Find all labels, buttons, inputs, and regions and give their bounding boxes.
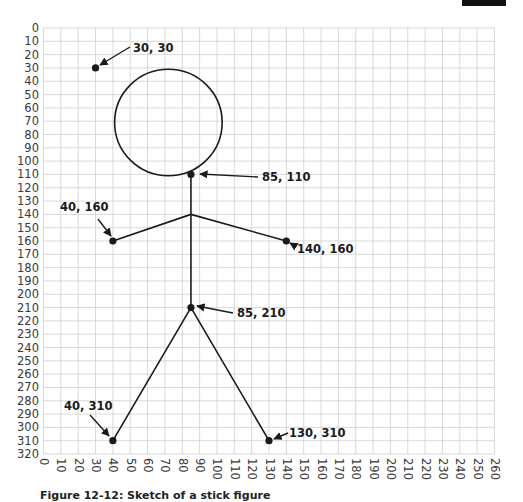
x-tick-label: 80 bbox=[176, 458, 190, 473]
y-axis-labels: 0102030405060708090100110120130140150160… bbox=[17, 21, 39, 461]
label-arrow bbox=[197, 306, 233, 313]
x-tick-label: 150 bbox=[297, 458, 311, 480]
label-arrow bbox=[100, 47, 130, 65]
x-tick-label: 0 bbox=[37, 458, 51, 465]
data-point bbox=[187, 171, 194, 178]
x-tick-label: 200 bbox=[384, 458, 398, 480]
x-tick-label: 100 bbox=[210, 458, 224, 480]
x-tick-label: 210 bbox=[401, 458, 415, 480]
y-tick-label: 110 bbox=[17, 167, 39, 181]
y-tick-label: 100 bbox=[17, 154, 39, 168]
x-tick-label: 260 bbox=[488, 458, 502, 480]
y-tick-label: 30 bbox=[24, 61, 39, 75]
x-tick-label: 50 bbox=[124, 458, 138, 473]
x-tick-label: 110 bbox=[228, 458, 242, 480]
point-label: 40, 310 bbox=[64, 399, 112, 413]
y-tick-label: 0 bbox=[32, 21, 39, 35]
y-tick-label: 240 bbox=[17, 341, 39, 355]
x-tick-label: 170 bbox=[332, 458, 346, 480]
y-tick-label: 90 bbox=[24, 141, 39, 155]
data-point bbox=[187, 304, 194, 311]
x-tick-label: 230 bbox=[436, 458, 450, 480]
y-tick-label: 10 bbox=[24, 34, 39, 48]
x-tick-label: 130 bbox=[263, 458, 277, 480]
y-tick-label: 140 bbox=[17, 207, 39, 221]
data-point bbox=[109, 237, 116, 244]
y-tick-label: 290 bbox=[17, 407, 39, 421]
y-tick-label: 260 bbox=[17, 367, 39, 381]
x-tick-label: 60 bbox=[141, 458, 155, 473]
y-tick-label: 150 bbox=[17, 221, 39, 235]
y-tick-label: 160 bbox=[17, 234, 39, 248]
x-tick-label: 120 bbox=[245, 458, 259, 480]
y-tick-label: 60 bbox=[24, 101, 39, 115]
x-tick-label: 190 bbox=[367, 458, 381, 480]
data-point bbox=[109, 437, 116, 444]
point-label: 30, 30 bbox=[133, 41, 173, 55]
x-tick-label: 10 bbox=[54, 458, 68, 473]
y-tick-label: 310 bbox=[17, 434, 39, 448]
x-tick-label: 70 bbox=[158, 458, 172, 473]
y-tick-label: 80 bbox=[24, 128, 39, 142]
y-tick-label: 270 bbox=[17, 380, 39, 394]
y-tick-label: 120 bbox=[17, 181, 39, 195]
y-tick-label: 20 bbox=[24, 48, 39, 62]
y-tick-label: 50 bbox=[24, 88, 39, 102]
point-label: 85, 210 bbox=[237, 306, 285, 320]
x-tick-label: 20 bbox=[72, 458, 86, 473]
x-tick-label: 40 bbox=[106, 458, 120, 473]
point-label: 40, 160 bbox=[60, 200, 108, 214]
y-tick-label: 230 bbox=[17, 327, 39, 341]
figure-caption: Figure 12-12: Sketch of a stick figure bbox=[40, 489, 270, 502]
y-tick-label: 170 bbox=[17, 247, 39, 261]
y-tick-label: 130 bbox=[17, 194, 39, 208]
point-label: 130, 310 bbox=[289, 426, 345, 440]
data-point bbox=[283, 237, 290, 244]
x-axis-labels: 0102030405060708090100110120130140150160… bbox=[37, 458, 502, 480]
x-tick-label: 220 bbox=[419, 458, 433, 480]
y-tick-label: 280 bbox=[17, 394, 39, 408]
point-label: 140, 160 bbox=[297, 242, 353, 256]
x-tick-label: 240 bbox=[453, 458, 467, 480]
y-tick-label: 40 bbox=[24, 74, 39, 88]
y-tick-label: 250 bbox=[17, 354, 39, 368]
y-tick-label: 180 bbox=[17, 261, 39, 275]
point-label: 85, 110 bbox=[262, 170, 310, 184]
y-tick-label: 210 bbox=[17, 301, 39, 315]
y-tick-label: 200 bbox=[17, 287, 39, 301]
x-tick-label: 30 bbox=[89, 458, 103, 473]
label-arrow bbox=[90, 415, 109, 436]
y-tick-label: 70 bbox=[24, 114, 39, 128]
x-tick-label: 180 bbox=[349, 458, 363, 480]
label-arrow bbox=[274, 433, 288, 439]
point-labels: 30, 3085, 11040, 160140, 16085, 21040, 3… bbox=[60, 41, 353, 440]
y-tick-label: 300 bbox=[17, 420, 39, 434]
x-tick-label: 140 bbox=[280, 458, 294, 480]
x-tick-label: 90 bbox=[193, 458, 207, 473]
y-tick-label: 220 bbox=[17, 314, 39, 328]
data-point bbox=[92, 64, 99, 71]
data-point bbox=[265, 437, 272, 444]
y-tick-label: 320 bbox=[17, 447, 39, 461]
x-tick-label: 160 bbox=[315, 458, 329, 480]
head-circle bbox=[115, 69, 223, 176]
x-tick-label: 250 bbox=[471, 458, 485, 480]
y-tick-label: 190 bbox=[17, 274, 39, 288]
label-arrow bbox=[290, 243, 295, 246]
